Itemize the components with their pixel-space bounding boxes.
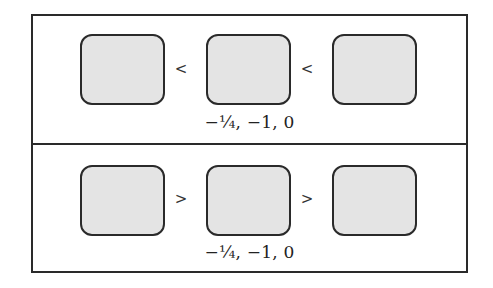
ordering-worksheet-frame: < < −¼, −1, 0 > > −¼, −1, 0 bbox=[31, 14, 468, 273]
panel-ascending: < < −¼, −1, 0 bbox=[33, 16, 466, 145]
answer-box-3[interactable] bbox=[332, 34, 417, 105]
answer-box-1[interactable] bbox=[80, 165, 165, 236]
number-set-caption: −¼, −1, 0 bbox=[33, 112, 466, 132]
greater-than-symbol: > bbox=[171, 190, 191, 208]
less-than-symbol: < bbox=[297, 60, 317, 78]
panel-descending: > > −¼, −1, 0 bbox=[33, 145, 466, 271]
answer-box-2[interactable] bbox=[206, 34, 291, 105]
answer-box-3[interactable] bbox=[332, 165, 417, 236]
answer-box-2[interactable] bbox=[206, 165, 291, 236]
answer-box-1[interactable] bbox=[80, 34, 165, 105]
less-than-symbol: < bbox=[171, 60, 191, 78]
number-set-caption: −¼, −1, 0 bbox=[33, 242, 466, 262]
greater-than-symbol: > bbox=[297, 190, 317, 208]
